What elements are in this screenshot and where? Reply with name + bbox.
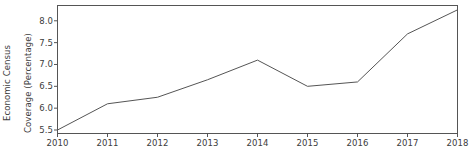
y-axis-ticks [54,21,58,130]
line-chart: Economic Census Coverage (Percentage) 5.… [0,0,472,166]
x-tick-label: 2011 [96,138,118,148]
x-tick-label: 2017 [396,138,418,148]
x-tick-label: 2018 [446,138,468,148]
x-tick-label: 2012 [146,138,168,148]
x-tick-label: 2014 [246,138,268,148]
x-tick-label: 2016 [346,138,368,148]
x-tick-label: 2013 [196,138,218,148]
x-tick-label: 2010 [46,138,68,148]
x-axis-ticks [58,134,458,138]
x-tick-label: 2015 [296,138,318,148]
data-series-line [58,10,458,130]
plot-frame [58,6,458,134]
